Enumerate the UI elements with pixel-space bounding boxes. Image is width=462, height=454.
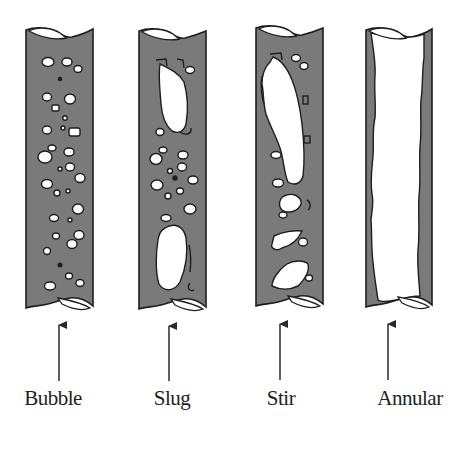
label-annular: Annular (377, 386, 442, 411)
slug-tube (139, 29, 206, 311)
gas-core (371, 33, 424, 302)
label-slug: Slug (154, 386, 191, 411)
flow-arrows (59, 324, 388, 381)
label-bubble: Bubble (24, 386, 82, 411)
stir-tube (256, 26, 323, 308)
bubble-tube (26, 28, 93, 310)
label-stir: Stir (267, 386, 295, 411)
annular-tube (366, 28, 432, 309)
